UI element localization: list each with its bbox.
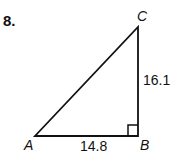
right-angle-marker xyxy=(128,125,138,136)
vertex-b-label: B xyxy=(140,137,149,153)
side-ab-length: 14.8 xyxy=(80,138,107,154)
vertex-c-label: C xyxy=(137,8,147,24)
vertex-a-label: A xyxy=(24,137,33,153)
side-bc-length: 16.1 xyxy=(143,72,170,88)
triangle-abc xyxy=(35,27,138,136)
